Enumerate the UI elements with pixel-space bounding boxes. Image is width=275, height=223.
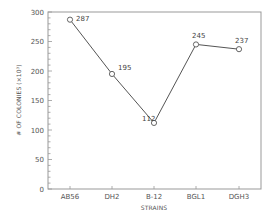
y-tick-label: 300 xyxy=(31,9,44,17)
data-label: 287 xyxy=(76,15,89,23)
x-tick-label: BGL1 xyxy=(187,193,205,201)
data-label: 237 xyxy=(235,37,248,45)
data-point xyxy=(67,17,72,22)
data-label: 245 xyxy=(192,32,205,40)
y-tick-label: 100 xyxy=(31,127,44,135)
y-tick-label: 50 xyxy=(35,156,44,164)
data-markers xyxy=(67,17,241,125)
x-tick-label: DGH3 xyxy=(229,193,250,201)
y-tick-label: 0 xyxy=(40,186,44,194)
y-tick-label: 200 xyxy=(31,68,44,76)
y-axis-title: # OF COLONIES (×10³) xyxy=(15,64,22,135)
x-axis-title: STRAINS xyxy=(141,204,167,211)
data-point xyxy=(236,47,241,52)
x-axis-tick-labels: AB56DH2B-12BGL1DGH3 xyxy=(61,193,250,201)
data-point xyxy=(193,42,198,47)
y-tick-label: 250 xyxy=(31,38,44,46)
data-label: 195 xyxy=(118,64,131,72)
data-label: 112 xyxy=(142,115,155,123)
x-tick-label: AB56 xyxy=(61,193,80,201)
line-chart: 050100150200250300 AB56DH2B-12BGL1DGH3 2… xyxy=(0,0,275,223)
y-axis-ticks xyxy=(48,12,52,189)
x-tick-label: B-12 xyxy=(146,193,162,201)
y-axis-tick-labels: 050100150200250300 xyxy=(31,9,44,194)
plot-frame xyxy=(48,12,261,189)
y-tick-label: 150 xyxy=(31,97,44,105)
x-tick-label: DH2 xyxy=(104,193,119,201)
data-point xyxy=(109,71,114,76)
series-line xyxy=(70,20,239,123)
